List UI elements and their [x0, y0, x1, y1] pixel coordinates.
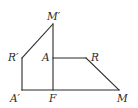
geometry-diagram: M′ R′ A R A′ F M: [0, 0, 138, 108]
label-m-prime: M′: [46, 10, 61, 22]
label-r: R: [90, 51, 99, 63]
label-m: M: [116, 92, 128, 104]
label-a-prime: A′: [9, 92, 21, 104]
label-f: F: [48, 92, 57, 104]
label-a: A: [41, 51, 50, 63]
label-r-prime: R′: [7, 51, 19, 63]
